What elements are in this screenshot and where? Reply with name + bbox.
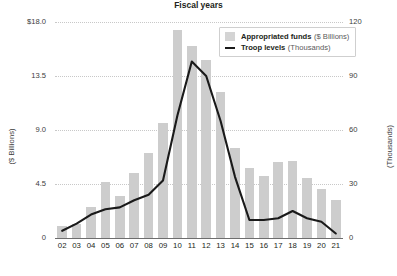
y-axis-right-tick-label: 90 xyxy=(349,71,357,80)
bar xyxy=(273,162,283,238)
bar-swatch-icon xyxy=(225,32,235,41)
y-axis-left-tick-label: $18.0 xyxy=(27,17,46,26)
gridline xyxy=(55,130,343,131)
bar xyxy=(216,92,226,238)
bar xyxy=(245,168,255,238)
bar xyxy=(173,30,183,238)
bar xyxy=(72,224,82,238)
line-swatch-icon xyxy=(225,47,235,49)
y-axis-left-tick-label: 4.5 xyxy=(35,179,46,188)
bar xyxy=(317,189,327,238)
bar xyxy=(288,161,298,238)
bar xyxy=(302,178,312,238)
chart-legend: Appropriated funds ($ Billions) Troop le… xyxy=(219,27,356,57)
chart-container: ($ Billions) (Thousands) Fiscal years $1… xyxy=(0,0,397,276)
x-axis-tick-label: 21 xyxy=(328,241,344,250)
bar xyxy=(158,123,168,238)
bar xyxy=(201,60,211,238)
bar xyxy=(57,226,67,238)
gridline xyxy=(55,184,343,185)
y-axis-right-tick-label: 0 xyxy=(349,233,353,242)
bar xyxy=(259,176,269,238)
bar xyxy=(101,182,111,238)
bar xyxy=(187,46,197,238)
legend-unit-appropriated-funds: ($ Billions) xyxy=(314,32,349,41)
x-axis-line xyxy=(55,238,343,239)
legend-unit-troop-levels: (Thousands) xyxy=(288,43,331,52)
y-axis-right-tick-label: 30 xyxy=(349,179,357,188)
y-axis-left-title: ($ Billions) xyxy=(7,112,16,182)
y-axis-right-title: (Thousands) xyxy=(385,110,394,184)
y-axis-right-tick-label: 60 xyxy=(349,125,357,134)
bar xyxy=(86,207,96,238)
legend-label-appropriated-funds: Appropriated funds xyxy=(241,32,311,41)
legend-item-appropriated-funds: Appropriated funds ($ Billions) xyxy=(225,31,349,42)
gridline xyxy=(55,22,343,23)
legend-item-troop-levels: Troop levels (Thousands) xyxy=(225,42,349,53)
bar xyxy=(129,173,139,238)
bar xyxy=(144,153,154,238)
bar xyxy=(331,200,341,238)
y-axis-left-tick-label: 9.0 xyxy=(35,125,46,134)
y-axis-left-tick-label: 0 xyxy=(42,233,46,242)
bar xyxy=(115,196,125,238)
legend-label-troop-levels: Troop levels xyxy=(241,43,285,52)
x-axis-title: Fiscal years xyxy=(0,0,397,10)
y-axis-right-tick-label: 120 xyxy=(349,17,362,26)
y-axis-left-tick-label: 13.5 xyxy=(31,71,46,80)
bar xyxy=(230,148,240,238)
gridline xyxy=(55,76,343,77)
